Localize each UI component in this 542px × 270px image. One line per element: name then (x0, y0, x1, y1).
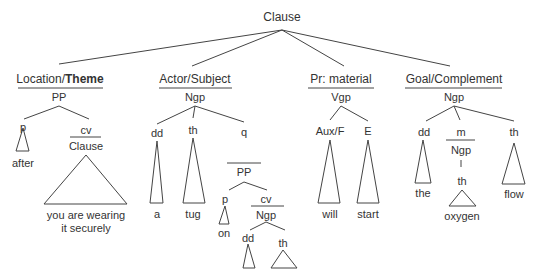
p-label: p (20, 121, 26, 133)
q-dd-label: dd (242, 232, 254, 244)
actor-subject-function: Actor/Subject (159, 73, 230, 85)
q-label: q (241, 126, 247, 138)
th-label: th (188, 124, 197, 136)
dd-label: dd (151, 127, 163, 139)
word-a: a (154, 208, 160, 220)
root-clause-label: Clause (263, 11, 300, 23)
pp-category: PP (52, 91, 67, 103)
location-theme-function: Location/Theme (16, 73, 103, 85)
aux-f-label: Aux/F (316, 125, 345, 137)
pr-material-function: Pr: material (310, 73, 371, 85)
e-label: E (364, 125, 371, 137)
goal-th-label: th (509, 126, 518, 138)
cv-label: cv (81, 124, 92, 136)
word-the-oxygen-det: the (415, 187, 430, 199)
word-will: will (322, 208, 337, 220)
m-th-label: th (457, 175, 466, 187)
word-tug: tug (185, 208, 200, 220)
q-th-label: th (278, 237, 287, 249)
clause-category: Clause (69, 140, 103, 152)
word-on: on (218, 227, 230, 239)
ngp-category: Ngp (185, 91, 205, 103)
word-oxygen: oxygen (444, 210, 479, 222)
q-p-label: p (222, 193, 228, 205)
vgp-category: Vgp (331, 91, 351, 103)
words-it-securely: it securely (61, 222, 111, 234)
goal-ngp-category: Ngp (444, 91, 464, 103)
goal-dd-label: dd (418, 126, 430, 138)
word-start: start (357, 208, 378, 220)
words-you-are-wearing: you are wearing (47, 209, 125, 221)
m-label: m (456, 126, 465, 138)
q-cv-label: cv (261, 193, 272, 205)
q-ngp-category: Ngp (256, 209, 276, 221)
goal-complement-function: Goal/Complement (406, 73, 503, 85)
word-flow: flow (504, 188, 524, 200)
word-after: after (12, 157, 34, 169)
q-pp-category: PP (237, 166, 252, 178)
m-ngp-category: Ngp (451, 144, 471, 156)
